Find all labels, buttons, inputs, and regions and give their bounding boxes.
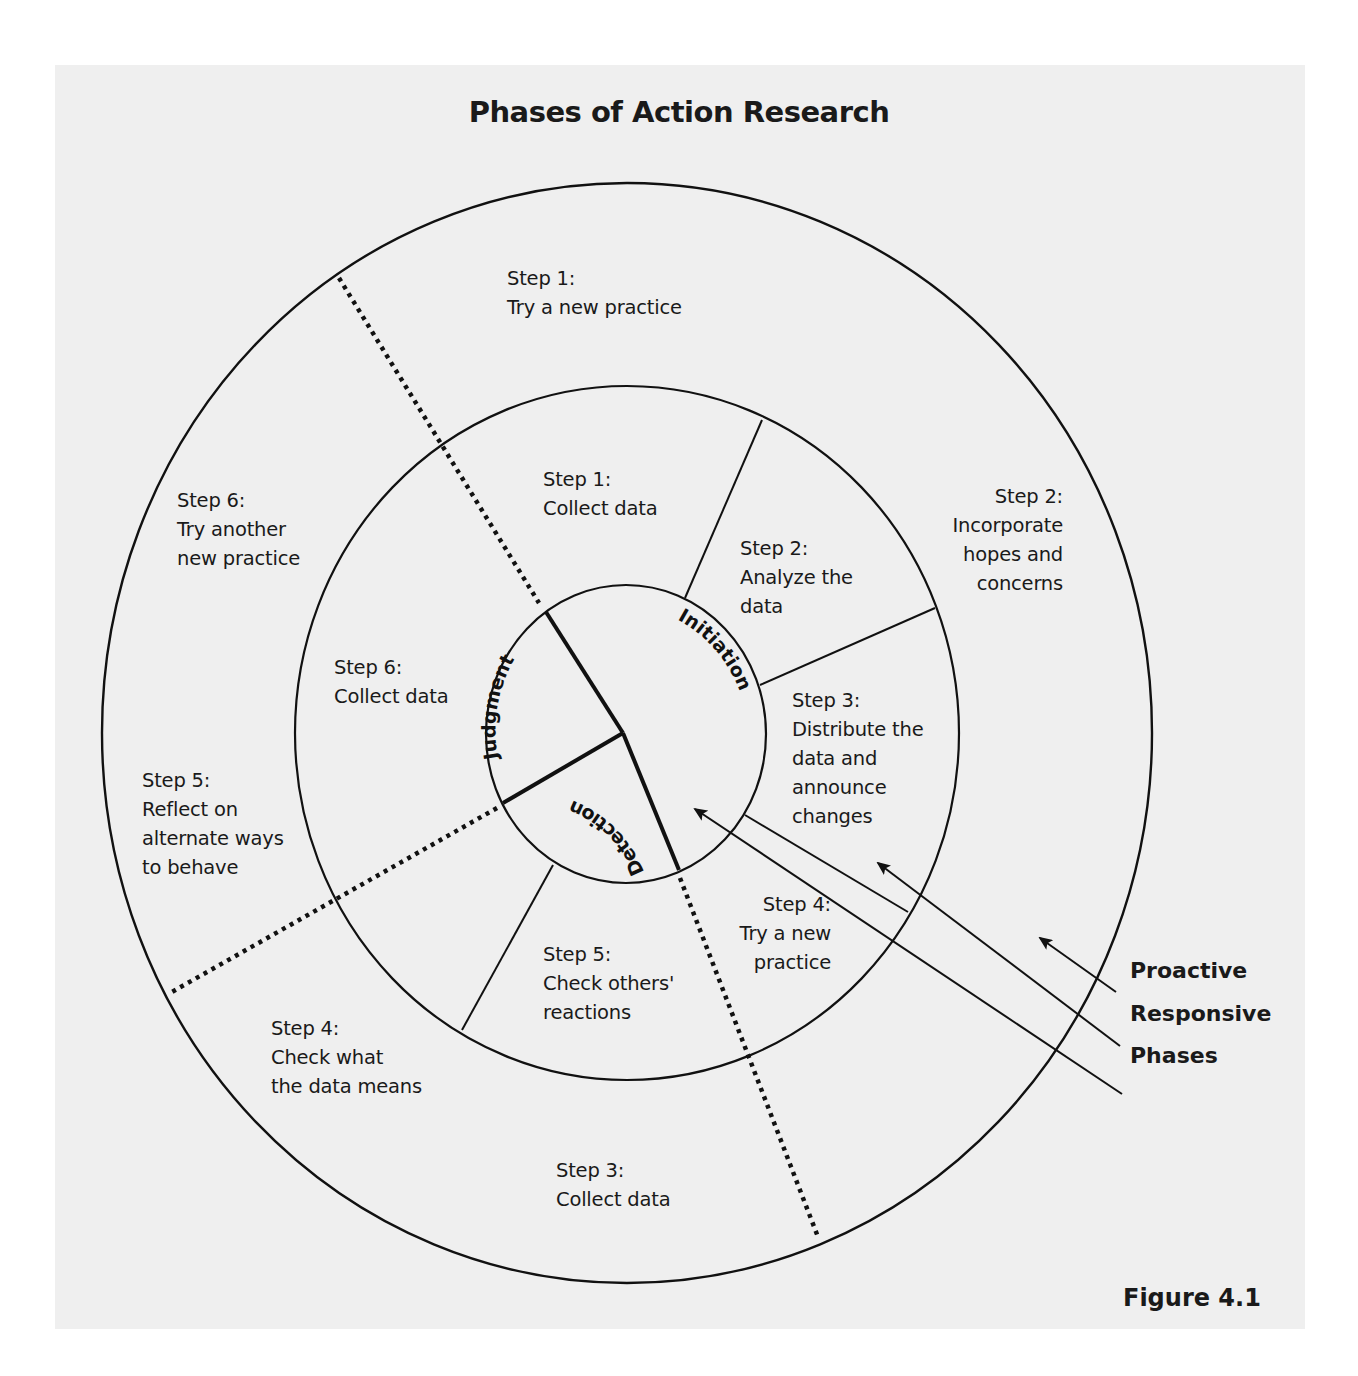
action-research-diagram: Initiation Judgment Detection (0, 0, 1358, 1376)
legend-phases: Phases (1130, 1043, 1218, 1068)
middle-step-5: Step 5: Check others' reactions (543, 940, 674, 1027)
legend-proactive: Proactive (1130, 958, 1247, 983)
figure-number: Figure 4.1 (1123, 1284, 1261, 1312)
arrow-proactive (1040, 938, 1116, 992)
figure-title: Phases of Action Research (0, 95, 1358, 129)
outer-step-1: Step 1: Try a new practice (507, 264, 682, 322)
phase-label-judgment: Judgment (477, 650, 518, 763)
middle-step-1: Step 1: Collect data (543, 465, 657, 523)
outer-ring-proactive (102, 183, 1152, 1283)
outer-step-6: Step 6: Try another new practice (177, 486, 300, 573)
middle-step-4: Step 4: Try a new practice (700, 890, 831, 977)
middle-step-3: Step 3: Distribute the data and announce… (792, 686, 923, 831)
middle-step-2: Step 2: Analyze the data (740, 534, 853, 621)
phase-label-detection: Detection (565, 797, 648, 880)
legend-responsive: Responsive (1130, 1001, 1271, 1026)
middle-step-6: Step 6: Collect data (334, 653, 448, 711)
outer-step-4: Step 4: Check what the data means (271, 1014, 422, 1101)
outer-step-2: Step 2: Incorporate hopes and concerns (900, 482, 1063, 598)
outer-step-5: Step 5: Reflect on alternate ways to beh… (142, 766, 284, 882)
outer-step-3: Step 3: Collect data (556, 1156, 670, 1214)
phase-dividers (503, 612, 679, 870)
